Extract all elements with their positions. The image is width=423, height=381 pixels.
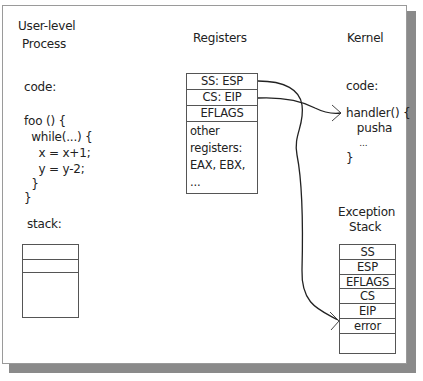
arrow-cs-eip-to-handler [258, 98, 341, 114]
arrow-ss-esp-to-error [258, 81, 338, 320]
arrows-layer [0, 0, 423, 381]
arrowhead-error-icon [330, 312, 339, 330]
